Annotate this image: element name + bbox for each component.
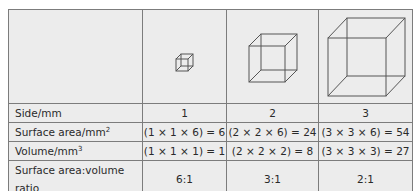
row-label: Volume/mm3 [9, 142, 143, 161]
cell-volume-3: (3 × 3 × 3) = 27 [319, 142, 413, 161]
cube-cell-1 [143, 10, 227, 104]
table-row-surface-area: Surface area/mm2 (1 × 1 × 6) = 6 (2 × 2 … [9, 123, 413, 142]
cube-illustration-row [9, 10, 413, 104]
cube-cell-3 [319, 10, 413, 104]
table-row-volume: Volume/mm3 (1 × 1 × 1) = 1 (2 × 2 × 2) =… [9, 142, 413, 161]
cube-cell-2 [227, 10, 319, 104]
cell-ratio-3: 2:1 [319, 161, 413, 192]
cell-volume-2: (2 × 2 × 2) = 8 [227, 142, 319, 161]
cell-side-1: 1 [143, 104, 227, 123]
cube-1mm-icon [175, 53, 195, 73]
table-row-ratio: Surface area:volume ratio 6:1 3:1 2:1 [9, 161, 413, 192]
cube-3mm-icon [325, 15, 407, 99]
row-label: Side/mm [9, 104, 143, 123]
cell-volume-1: (1 × 1 × 1) = 1 [143, 142, 227, 161]
cell-ratio-2: 3:1 [227, 161, 319, 192]
surface-area-volume-table: Side/mm 1 2 3 Surface area/mm2 (1 × 1 × … [8, 9, 413, 191]
row-label: Surface area/mm2 [9, 123, 143, 142]
cell-surface-area-1: (1 × 1 × 6) = 6 [143, 123, 227, 142]
cube-2mm-icon [247, 32, 299, 84]
empty-header-cell [9, 10, 143, 104]
table-row-side: Side/mm 1 2 3 [9, 104, 413, 123]
cell-side-3: 3 [319, 104, 413, 123]
cell-surface-area-3: (3 × 3 × 6) = 54 [319, 123, 413, 142]
cell-side-2: 2 [227, 104, 319, 123]
cell-ratio-1: 6:1 [143, 161, 227, 192]
row-label: Surface area:volume ratio [9, 161, 143, 192]
cell-surface-area-2: (2 × 2 × 6) = 24 [227, 123, 319, 142]
